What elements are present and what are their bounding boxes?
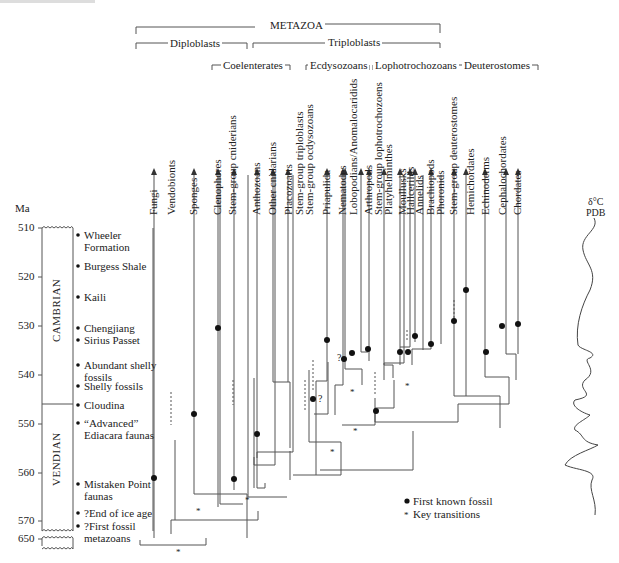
tick-510: 510 [18,221,35,233]
taxon-platyhelminthes: Platyhelminthes [383,144,394,215]
star-icon: * [405,381,410,391]
event-cloudina: Cloudina [84,399,124,411]
event-burgess: Burgess Shale [84,260,146,272]
taxon-echinoderms: Echinoderms [480,157,491,215]
tick-560: 560 [18,466,35,478]
diploblasts-label: Diploblasts [168,37,222,49]
event-chengjiang: Chengjiang [84,322,135,334]
legend-key-transitions: Key transitions [413,508,480,520]
taxon-chordates: Chordates [512,170,523,215]
deuterostomes-label: Deuterostomes [462,59,532,71]
taxon-stem-ecdysozoans: Stem-group ocdysozoans [304,104,315,215]
isotope-label: δ°C PDB [586,196,605,218]
question-mark: ? [318,393,322,404]
wavy-break-1 [42,530,73,532]
event-first-metazoans: ?First fossilmetazoans [84,520,136,544]
axis-unit-label: Ma [15,202,30,214]
tick-marks [38,228,42,539]
taxon-lobopodians: Lobopodians/Anomalocaridids [348,79,359,215]
event-wheeler: WheelerFormation [84,229,130,253]
taxon-vendobionts: Vendobionts [166,160,177,215]
event-end-ice-age: ?End of ice age [84,507,152,519]
star-icon: * [196,506,201,516]
star-icon: * [353,426,358,436]
star-icon: * [330,447,335,457]
taxon-priapulida: Priapulida [321,170,332,215]
metazoa-label: METAZOA [268,19,325,31]
star-icon: * [350,387,355,397]
taxon-hemichordates: Hemichordates [465,148,476,215]
coelenterates-label: Coelenterates [221,59,285,71]
question-mark: ? [337,352,341,363]
event-sirius-passet: Sirius Passet [84,334,140,346]
legend-star-icon: * [404,510,409,520]
wavy-top [42,227,73,229]
taxon-clenophores: Clenophores [212,159,223,215]
taxon-phoronids: Phoronids [435,170,446,215]
legend-first-fossil: First known fossil [413,495,492,507]
event-kaili: Kaili [84,291,106,303]
star-icon: * [176,547,181,557]
tick-520: 520 [18,270,35,282]
taxon-cephalochordates: Cephalochordates [497,136,508,215]
taxon-stem-deuterostomes: Stem-group deuterostomes [448,97,459,215]
ecdysozoans-label: Ecdysozoans [308,59,369,71]
taxon-fungi: Fungi [148,189,159,215]
tick-550: 550 [18,417,35,429]
event-mistaken-point: Mistaken Pointfaunas [84,478,151,502]
tick-570: 570 [18,514,35,526]
tick-650: 650 [18,532,35,544]
lophotrochozoans-label: Lophotrochozoans [373,59,459,71]
taxon-other-cnidarians: Other cnidarians [267,142,278,215]
taxon-sponges: Sponges [188,178,199,215]
tick-540: 540 [18,368,35,380]
period-cambrian: CAMBRIAN [50,279,62,342]
period-vendian: VENDIAN [50,432,62,486]
triploblasts-label: Triploblasts [326,36,382,48]
isotope-curve [565,218,598,515]
event-shelly-fossils: Shelly fossils [84,380,143,392]
lineage-lines [140,175,518,545]
taxon-stem-cnidarians: Stem-group cniderians [227,115,238,215]
tick-530: 530 [18,319,35,331]
star-icon: * [245,495,250,505]
taxon-anthozoans: Anthozoans [251,162,262,215]
event-advanced-ediacara: “Advanced”Ediacara faunas [84,417,154,441]
